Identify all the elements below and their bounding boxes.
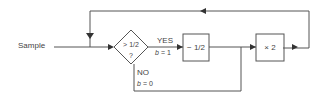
no-b-value: = 0: [143, 80, 153, 87]
input-label: Sample: [18, 41, 46, 50]
yes-b-label: b: [155, 49, 159, 56]
left-arrow-icon: [200, 8, 206, 14]
flowchart: Sample > 1/2 ? YES b = 1 NO b = 0 − 1/2 …: [0, 0, 324, 100]
down-arrow-icon: [86, 33, 94, 39]
right-arrow-icon: [292, 44, 298, 50]
decision-text: > 1/2: [123, 41, 139, 48]
no-label: NO: [137, 68, 149, 77]
right-arrow-icon: [177, 44, 183, 50]
multiply-label: × 2: [264, 43, 276, 52]
no-b-label: b: [137, 80, 141, 87]
decision-question: ?: [129, 52, 133, 59]
yes-label: YES: [157, 36, 173, 45]
subtract-label: − 1/2: [187, 43, 206, 52]
right-arrow-icon: [108, 44, 114, 50]
yes-b-value: = 1: [161, 49, 171, 56]
right-arrow-icon: [250, 44, 256, 50]
